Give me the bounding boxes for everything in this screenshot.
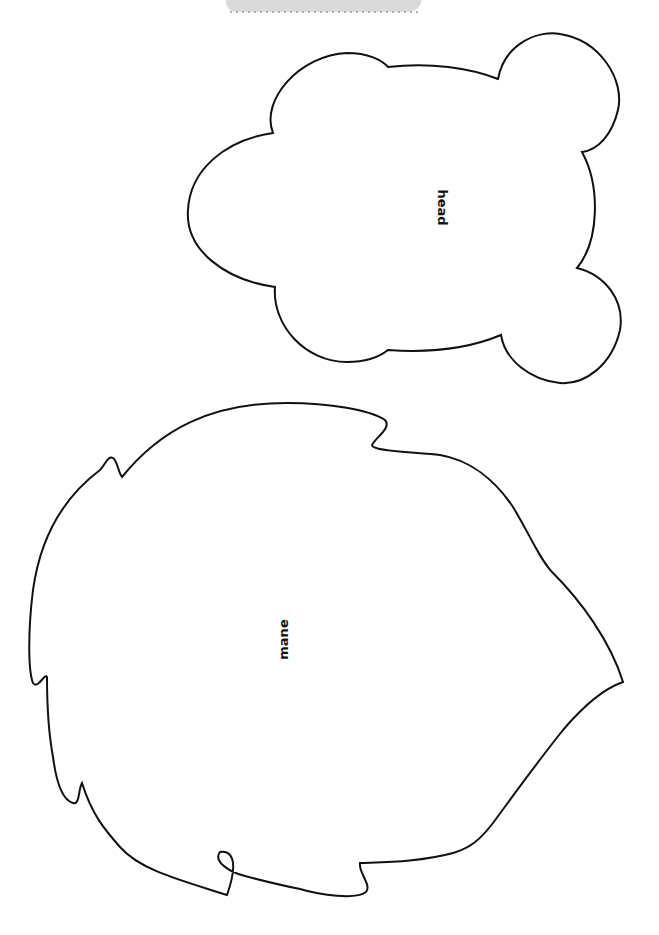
head-outline	[188, 33, 621, 383]
cutout-shapes	[0, 0, 659, 935]
mane-label: mane	[276, 619, 291, 659]
mane-outline	[29, 403, 623, 896]
head-label: head	[435, 189, 450, 225]
template-page: head mane	[0, 0, 659, 935]
